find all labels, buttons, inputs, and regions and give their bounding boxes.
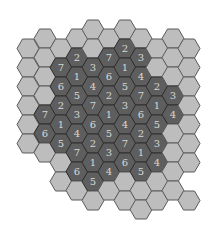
cell-number bbox=[178, 153, 200, 172]
hex-puzzle-board: 7676215215347634762157621534215347634762… bbox=[0, 0, 211, 237]
border-cell bbox=[178, 77, 200, 96]
cell-number bbox=[178, 96, 200, 115]
cell-number bbox=[178, 58, 200, 77]
cell-number bbox=[178, 39, 200, 58]
cell-number bbox=[178, 191, 200, 210]
border-cell bbox=[178, 96, 200, 115]
border-cell bbox=[178, 115, 200, 134]
border-cell bbox=[178, 191, 200, 210]
border-cell bbox=[178, 134, 200, 153]
border-cell bbox=[178, 153, 200, 172]
cell-number bbox=[178, 115, 200, 134]
cell-number bbox=[178, 77, 200, 96]
border-cell bbox=[178, 58, 200, 77]
cell-number bbox=[178, 134, 200, 153]
border-cell bbox=[178, 39, 200, 58]
